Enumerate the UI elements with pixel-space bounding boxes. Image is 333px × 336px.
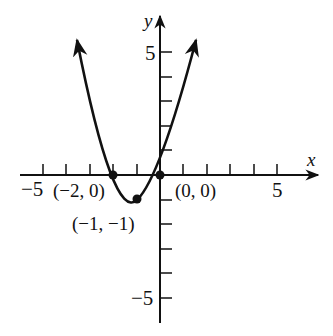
point-label-origin: (0, 0) — [175, 180, 216, 202]
y-axis-label: y — [142, 10, 153, 31]
y-tick-label-5: 5 — [145, 41, 156, 65]
point-label-vertex: (−1, −1) — [72, 213, 135, 235]
x-tick-label-5: 5 — [272, 178, 283, 202]
x-axis-label: x — [306, 149, 316, 170]
y-tick-label-neg5: −5 — [131, 286, 153, 310]
x-tick-label-neg5: −5 — [21, 177, 43, 201]
parabola-curve — [77, 40, 196, 203]
point-vertex — [133, 195, 142, 204]
point-neg2-0 — [109, 171, 118, 180]
parabola-chart: y x 5 −5 −5 5 (−2, 0) (−1, −1) (0, 0) — [0, 0, 333, 336]
point-origin — [156, 171, 165, 180]
point-label-neg2-0: (−2, 0) — [53, 180, 105, 202]
